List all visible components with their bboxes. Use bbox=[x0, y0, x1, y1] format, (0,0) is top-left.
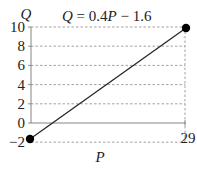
y-tick-label: 2 bbox=[18, 96, 26, 112]
title-var: P bbox=[107, 8, 117, 24]
endpoint-dot bbox=[182, 24, 190, 32]
y-tick-label: 4 bbox=[18, 77, 26, 93]
y-tick-label: 8 bbox=[18, 38, 26, 54]
gridlines bbox=[31, 27, 185, 142]
y-tick-label: 0 bbox=[18, 115, 26, 131]
data-series bbox=[26, 24, 190, 143]
y-tick-label: −2 bbox=[9, 134, 25, 150]
series-line bbox=[30, 28, 186, 139]
x-tick-label: 29 bbox=[181, 130, 196, 146]
x-axis-label: P bbox=[94, 149, 104, 165]
title-eq: = 0.4 bbox=[73, 8, 108, 24]
chart-canvas: 1086420−229 Q Q = 0.4P − 1.6 P bbox=[0, 0, 197, 170]
chart-title: Q = 0.4P − 1.6 bbox=[62, 8, 152, 24]
title-lhs: Q bbox=[62, 8, 73, 24]
y-axis-label: Q bbox=[21, 6, 32, 22]
title-rest: − 1.6 bbox=[117, 8, 152, 24]
y-tick-label: 6 bbox=[18, 57, 26, 73]
endpoint-dot bbox=[26, 135, 34, 143]
